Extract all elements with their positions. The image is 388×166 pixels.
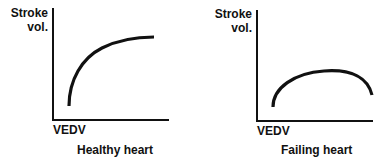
panel-title: Failing heart [281, 143, 352, 157]
y-axis-label-line1: Stroke [206, 7, 252, 21]
healthy-curve [69, 37, 154, 106]
y-axis-label: Stroke vol. [4, 6, 48, 34]
panel-title: Healthy heart [77, 143, 153, 157]
failing-heart-panel: Stroke vol. VEDV Failing heart [194, 0, 388, 166]
y-axis-label-line2: vol. [4, 20, 48, 34]
failing-curve [273, 71, 372, 107]
y-axis-label-line1: Stroke [4, 6, 48, 20]
y-axis-label: Stroke vol. [206, 7, 252, 35]
x-axis-label: VEDV [257, 124, 290, 138]
y-axis-label-line2: vol. [206, 21, 252, 35]
healthy-heart-panel: Stroke vol. VEDV Healthy heart [0, 0, 194, 166]
x-axis-label: VEDV [53, 123, 86, 137]
